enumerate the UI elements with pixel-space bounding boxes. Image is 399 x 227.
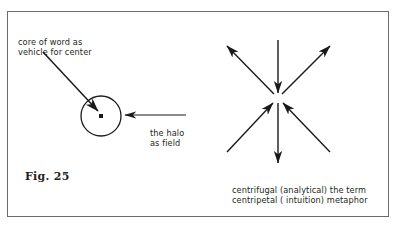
centrifugal-centripetal-caption: centrifugal (analytical) the term centri… (232, 185, 368, 205)
figure-number-label: Fig. 25 (25, 170, 70, 183)
core-of-word-label: core of word as vehicle for center (18, 37, 92, 57)
the-halo-as-field-label: the halo as field (150, 128, 184, 148)
figure-canvas: core of word as vehicle for center the h… (0, 0, 399, 227)
